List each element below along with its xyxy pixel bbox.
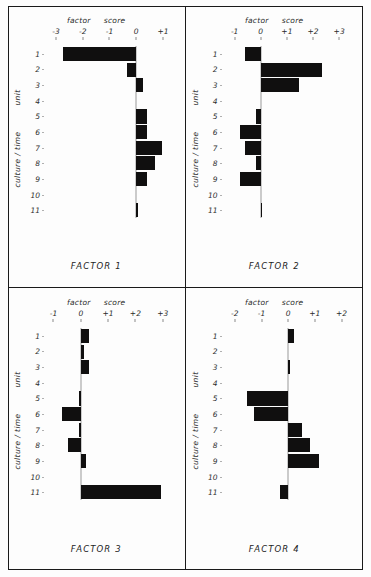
row-label: 4: [24, 96, 40, 105]
x-tick-label: 0: [134, 27, 139, 36]
x-ticklabels-3: -10+1+2+3: [8, 309, 185, 323]
axis-word-factor: factor: [67, 16, 91, 25]
row-tick: [42, 132, 44, 133]
row-label: 6: [202, 128, 218, 137]
bar-row-9: [288, 454, 319, 468]
row-label: 2: [202, 347, 218, 356]
bar-row-7: [288, 423, 302, 437]
bar-row-6: [62, 407, 81, 421]
row-tick: [42, 101, 44, 102]
row-label: 9: [202, 174, 218, 183]
bar-row-11: [280, 485, 288, 499]
row-label: 6: [202, 410, 218, 419]
bar-row-9: [240, 172, 260, 186]
x-tick-label: +1: [309, 309, 320, 318]
panel-factor-4: factorscore -2-10+1+2 1234567891011unitc…: [186, 288, 364, 570]
bar-row-2: [127, 63, 136, 77]
row-tick: [220, 116, 222, 117]
row-label: 4: [202, 96, 218, 105]
row-label: 9: [202, 456, 218, 465]
x-tick-mark: [80, 319, 81, 322]
x-tick-mark: [339, 37, 340, 40]
x-tick-label: -1: [231, 27, 238, 36]
bar-row-5: [256, 109, 261, 123]
axis-word-score: score: [104, 298, 126, 307]
row-tick: [220, 336, 222, 337]
row-tick: [220, 101, 222, 102]
panel-caption-4: FACTOR 4: [186, 544, 364, 554]
x-tick-mark: [313, 37, 314, 40]
row-label: 3: [24, 81, 40, 90]
y-axis-label-unit: unit: [190, 82, 199, 112]
row-label: 5: [24, 394, 40, 403]
x-tick-label: +2: [130, 309, 141, 318]
x-tick-label: +1: [281, 27, 292, 36]
row-tick: [42, 210, 44, 211]
x-tick-mark: [53, 319, 54, 322]
row-label: 4: [202, 378, 218, 387]
y-axis-label-culture-time: culture / time: [190, 131, 199, 189]
bar-row-8: [288, 438, 310, 452]
plot-area-3: 1234567891011unitculture / time: [8, 328, 185, 500]
x-tick-mark: [288, 319, 289, 322]
bar-row-8: [136, 156, 155, 170]
row-label: 5: [202, 112, 218, 121]
x-tick-label: +3: [157, 309, 168, 318]
row-tick: [220, 430, 222, 431]
axis-title-3: factorscore: [8, 298, 185, 307]
row-label: 9: [24, 456, 40, 465]
row-label: 11: [24, 206, 40, 215]
row-tick: [220, 69, 222, 70]
row-tick: [42, 414, 44, 415]
x-tick-mark: [109, 37, 110, 40]
x-tick-label: -1: [106, 27, 113, 36]
bar-row-3: [288, 360, 290, 374]
axis-word-score: score: [282, 298, 304, 307]
row-label: 1: [202, 331, 218, 340]
row-label: 8: [24, 159, 40, 168]
bar-row-6: [254, 407, 289, 421]
row-label: 4: [24, 378, 40, 387]
row-label: 7: [24, 143, 40, 152]
x-tick-mark: [135, 319, 136, 322]
row-label: 2: [202, 65, 218, 74]
row-label: 7: [24, 425, 40, 434]
x-tick-mark: [234, 319, 235, 322]
row-tick: [42, 163, 44, 164]
row-label: 3: [24, 363, 40, 372]
axis-word-score: score: [282, 16, 304, 25]
y-axis-label-culture-time: culture / time: [13, 131, 22, 189]
axis-header-1: factorscore -3-2-10+1: [8, 16, 185, 50]
bar-row-8: [256, 156, 261, 170]
row-tick: [42, 85, 44, 86]
row-label: 6: [24, 128, 40, 137]
bar-row-3: [261, 78, 299, 92]
row-label: 10: [202, 190, 218, 199]
bar-row-2: [81, 345, 84, 359]
x-tick-label: -2: [231, 309, 238, 318]
panel-factor-1: factorscore -3-2-10+1 1234567891011unitc…: [8, 6, 186, 288]
row-tick: [42, 116, 44, 117]
row-tick: [220, 445, 222, 446]
axis-header-2: factorscore -10+1+2+3: [186, 16, 364, 50]
x-tick-mark: [286, 37, 287, 40]
x-tick-label: -3: [52, 27, 59, 36]
bar-row-9: [136, 172, 147, 186]
y-axis-label-culture-time: culture / time: [13, 413, 22, 471]
row-label: 10: [202, 472, 218, 481]
row-tick: [220, 132, 222, 133]
x-tick-mark: [136, 37, 137, 40]
row-label: 1: [24, 331, 40, 340]
row-tick: [42, 148, 44, 149]
row-tick: [220, 148, 222, 149]
bar-row-2: [261, 63, 322, 77]
bar-row-8: [68, 438, 80, 452]
row-tick: [220, 367, 222, 368]
row-label: 5: [24, 112, 40, 121]
row-tick: [42, 69, 44, 70]
bar-row-7: [245, 141, 261, 155]
bar-row-5: [247, 391, 288, 405]
row-tick: [42, 336, 44, 337]
bar-row-5: [136, 109, 147, 123]
row-tick: [220, 85, 222, 86]
